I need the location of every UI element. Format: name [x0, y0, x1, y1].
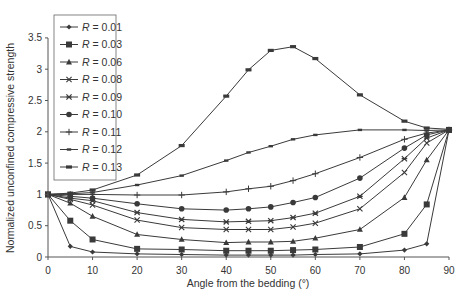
- y-tick-label: 0: [36, 252, 42, 263]
- square-marker-icon: [223, 248, 229, 254]
- bar-marker-icon: [223, 95, 229, 98]
- diamond-marker-icon: [357, 251, 362, 256]
- y-tick-label: 2.5: [28, 95, 42, 106]
- plus-marker-icon: [312, 171, 318, 177]
- dash-marker-icon: [269, 145, 273, 147]
- dash-marker-icon: [224, 159, 228, 161]
- x-tick-label: 60: [310, 265, 322, 276]
- square-marker-icon: [67, 218, 73, 224]
- dash-marker-icon: [90, 191, 94, 193]
- x-tick-label: 80: [399, 265, 411, 276]
- circle-marker-icon: [179, 206, 185, 212]
- star-marker-icon: [223, 219, 229, 224]
- bar-marker-icon: [446, 128, 452, 131]
- star-marker-icon: [313, 211, 319, 216]
- square-marker-icon: [401, 231, 407, 237]
- x-axis-title: Angle from the bedding (°): [187, 277, 310, 289]
- diamond-marker-icon: [90, 249, 95, 254]
- legend: R = 0.01R = 0.03R = 0.06R = 0.08R = 0.09…: [54, 15, 122, 180]
- star-marker-icon: [179, 217, 185, 222]
- square-marker-icon: [268, 248, 274, 254]
- triangle-marker-icon: [90, 213, 96, 219]
- triangle-marker-icon: [357, 226, 363, 232]
- star-marker-icon: [268, 218, 274, 223]
- dash-marker-icon: [358, 129, 362, 131]
- dash-marker-icon: [402, 129, 406, 131]
- dash-marker-icon: [246, 151, 250, 153]
- legend-label: R = 0.13: [82, 161, 122, 173]
- dash-marker-icon: [313, 134, 317, 136]
- x-tick-label: 70: [354, 265, 366, 276]
- y-tick-label: 1.5: [28, 158, 42, 169]
- y-axis-title: Normalized unconfined compressive streng…: [4, 43, 16, 253]
- legend-label: R = 0.10: [82, 108, 122, 120]
- x-tick-label: 90: [443, 265, 455, 276]
- plus-marker-icon: [223, 189, 229, 195]
- diamond-marker-icon: [68, 244, 73, 249]
- square-marker-icon: [357, 244, 363, 250]
- x-tick-label: 50: [265, 265, 277, 276]
- bar-marker-icon: [67, 192, 73, 195]
- bar-marker-icon: [424, 126, 430, 129]
- plus-marker-icon: [178, 192, 184, 198]
- square-marker-icon: [424, 201, 430, 207]
- plus-marker-icon: [134, 192, 140, 198]
- plus-marker-icon: [401, 136, 407, 142]
- star-marker-icon: [134, 210, 140, 215]
- legend-label: R = 0.06: [82, 56, 122, 68]
- dash-marker-icon: [67, 148, 71, 150]
- circle-marker-icon: [357, 175, 363, 181]
- bar-marker-icon: [401, 120, 407, 123]
- circle-marker-icon: [268, 204, 274, 210]
- triangle-marker-icon: [401, 194, 407, 200]
- plus-marker-icon: [290, 177, 296, 183]
- x-axis-ticks: 0102030405060708090: [45, 257, 455, 276]
- bar-marker-icon: [179, 144, 185, 147]
- square-marker-icon: [246, 248, 252, 254]
- dash-marker-icon: [179, 174, 183, 176]
- diamond-marker-icon: [313, 252, 318, 257]
- legend-label: R = 0.09: [82, 91, 122, 103]
- bar-marker-icon: [246, 68, 252, 71]
- diamond-marker-icon: [424, 241, 429, 246]
- square-marker-icon: [290, 247, 296, 253]
- square-marker-icon: [134, 246, 140, 252]
- bar-marker-icon: [66, 165, 72, 168]
- legend-label: R = 0.11: [82, 126, 121, 138]
- bar-marker-icon: [134, 173, 140, 176]
- y-tick-label: 2: [36, 126, 42, 137]
- diamond-marker-icon: [135, 251, 140, 256]
- circle-marker-icon: [223, 207, 229, 213]
- star-marker-icon: [290, 215, 296, 220]
- x-marker-icon: [402, 170, 407, 175]
- x-marker-icon: [424, 140, 429, 145]
- circle-marker-icon: [134, 201, 140, 207]
- bar-marker-icon: [268, 49, 274, 52]
- x-tick-label: 20: [132, 265, 144, 276]
- plus-marker-icon: [357, 154, 363, 160]
- bar-marker-icon: [90, 188, 96, 191]
- circle-marker-icon: [313, 195, 319, 201]
- circle-marker-icon: [402, 145, 408, 151]
- dash-marker-icon: [425, 129, 429, 131]
- square-marker-icon: [66, 42, 72, 48]
- square-marker-icon: [90, 236, 96, 242]
- circle-marker-icon: [290, 200, 296, 206]
- y-axis-ticks: 00.511.522.533.5: [28, 32, 48, 262]
- dash-marker-icon: [135, 184, 139, 186]
- star-marker-icon: [402, 156, 408, 161]
- circle-marker-icon: [66, 112, 72, 118]
- square-marker-icon: [179, 246, 185, 252]
- x-tick-label: 10: [87, 265, 99, 276]
- y-tick-label: 3: [36, 64, 42, 75]
- legend-label: R = 0.12: [82, 143, 122, 155]
- y-tick-label: 0.5: [28, 220, 42, 231]
- x-tick-label: 0: [45, 265, 51, 276]
- diamond-marker-icon: [402, 248, 407, 253]
- bar-marker-icon: [357, 93, 363, 96]
- square-marker-icon: [312, 246, 318, 252]
- plus-marker-icon: [245, 186, 251, 192]
- y-tick-label: 1: [36, 189, 42, 200]
- plus-marker-icon: [268, 183, 274, 189]
- y-tick-label: 3.5: [28, 32, 42, 43]
